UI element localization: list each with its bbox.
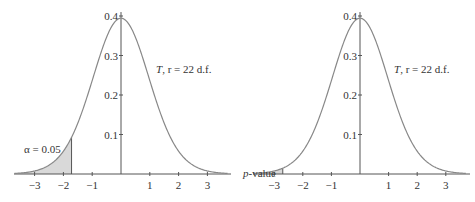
y-tick-label: 0.2 — [104, 89, 118, 101]
x-tick-label: −1 — [326, 179, 338, 191]
y-tick-label: 0.3 — [104, 50, 118, 62]
x-tick-label: −2 — [58, 179, 70, 191]
x-tick-label: 2 — [414, 179, 420, 191]
x-tick-label: 1 — [147, 179, 153, 191]
x-tick-label: −3 — [29, 179, 41, 191]
y-axis-ticks: 0.10.20.30.4 — [104, 10, 123, 141]
x-tick-label: 3 — [443, 179, 449, 191]
y-tick-label: 0.2 — [343, 89, 357, 101]
alpha-label: α = 0.05 — [24, 143, 61, 155]
x-axis-ticks: −3−2−1123 — [268, 172, 449, 191]
x-tick-label: 1 — [386, 179, 392, 191]
x-tick-label: 3 — [205, 179, 211, 191]
x-axis-ticks: −3−2−1123 — [29, 172, 211, 191]
y-tick-label: 0.1 — [343, 129, 357, 141]
x-tick-label: −2 — [297, 179, 309, 191]
y-tick-label: 0.3 — [343, 50, 357, 62]
chart-panel-left: −3−2−1123 0.10.20.30.4 T, r = 22 d.f. α … — [14, 10, 231, 191]
curve-label: T, r = 22 d.f. — [394, 63, 450, 75]
y-tick-label: 0.1 — [104, 129, 118, 141]
chart-panel-right: −3−2−1123 0.10.20.30.4 T, r = 22 d.f. p-… — [242, 10, 470, 191]
x-tick-label: −3 — [268, 179, 280, 191]
y-axis-ticks: 0.10.20.30.4 — [343, 10, 362, 141]
x-tick-label: −1 — [86, 179, 98, 191]
x-tick-label: 2 — [176, 179, 182, 191]
t-distribution-figure: −3−2−1123 0.10.20.30.4 T, r = 22 d.f. α … — [0, 0, 475, 202]
p-value-label: p-value — [242, 167, 276, 179]
curve-label: T, r = 22 d.f. — [156, 63, 212, 75]
